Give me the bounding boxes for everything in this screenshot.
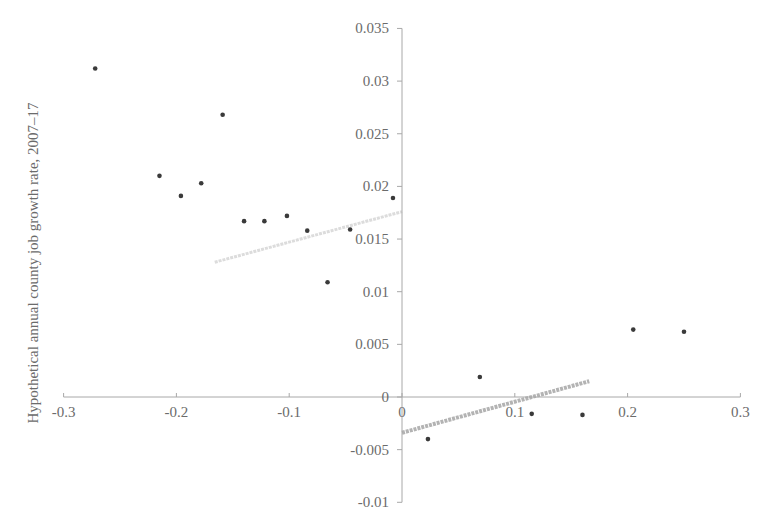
y-tick-label: 0.03: [363, 73, 389, 89]
y-tick-label: 0.01: [363, 284, 389, 300]
y-axis-ticks: 0.0350.030.0250.020.0150.010.0050-0.005-…: [350, 20, 402, 510]
data-point: [325, 280, 330, 285]
data-point: [682, 329, 687, 334]
data-point: [348, 227, 353, 232]
x-tick-label: 0: [398, 404, 406, 420]
y-axis-title: Hypothetical annual county job growth ra…: [25, 102, 41, 424]
data-point: [242, 219, 247, 224]
data-points: [93, 66, 686, 441]
data-point: [478, 375, 483, 380]
data-point: [631, 327, 636, 332]
data-point: [529, 412, 534, 417]
data-point: [220, 112, 225, 117]
x-tick-label: -0.1: [277, 404, 301, 420]
y-tick-label: 0.035: [355, 20, 389, 36]
y-tick-label: -0.005: [350, 442, 389, 458]
data-point: [93, 66, 98, 71]
data-point: [426, 437, 431, 442]
y-tick-label: 0.015: [355, 231, 389, 247]
data-point: [157, 174, 162, 179]
data-point: [391, 196, 396, 201]
data-point: [580, 413, 585, 418]
x-tick-label: 0.2: [618, 404, 637, 420]
data-point: [262, 219, 267, 224]
x-tick-label: -0.3: [52, 404, 76, 420]
data-point: [285, 214, 290, 219]
axes: [64, 28, 741, 502]
data-point: [305, 228, 310, 233]
x-tick-label: -0.2: [165, 404, 189, 420]
data-point: [179, 194, 184, 199]
x-tick-label: 0.1: [505, 404, 524, 420]
trendline-right-fit: [402, 381, 589, 433]
y-tick-label: -0.01: [358, 494, 389, 510]
y-tick-label: 0: [382, 389, 390, 405]
scatter-chart: Hypothetical annual county job growth ra…: [0, 0, 772, 531]
data-point: [199, 181, 204, 186]
x-tick-label: 0.3: [731, 404, 750, 420]
y-tick-label: 0.02: [363, 178, 389, 194]
y-tick-label: 0.025: [355, 126, 389, 142]
y-tick-label: 0.005: [355, 336, 389, 352]
